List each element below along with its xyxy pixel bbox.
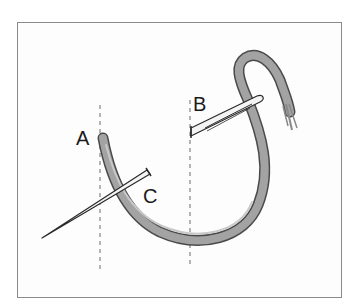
needle-c-icon (42, 168, 151, 238)
stitch-illustration (0, 0, 358, 306)
label-b: B (193, 94, 206, 114)
label-c: C (143, 186, 157, 206)
label-a: A (76, 128, 89, 148)
thread-icon (103, 55, 297, 240)
